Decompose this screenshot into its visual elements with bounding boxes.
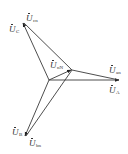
label-u-cn-main: U bbox=[26, 14, 33, 23]
label-u-an-sub: an bbox=[116, 70, 121, 75]
label-u-bn-main: U bbox=[29, 139, 36, 148]
label-u-an-main: U bbox=[109, 66, 116, 75]
phasor-u-nN bbox=[49, 70, 71, 80]
phasor-u-cn bbox=[24, 23, 72, 70]
label-u-a-sub: A bbox=[116, 90, 120, 95]
label-u-b-main: U bbox=[12, 128, 19, 137]
label-u-a-main: U bbox=[109, 86, 116, 95]
label-u-bn-sub: bn bbox=[36, 143, 41, 148]
label-u-c-main: U bbox=[9, 25, 16, 34]
label-u-an: Uan bbox=[109, 66, 121, 75]
label-u-b-sub: B bbox=[19, 132, 22, 137]
label-u-cn-sub: cn bbox=[33, 18, 38, 23]
label-u-nN-main: U bbox=[50, 61, 57, 70]
label-u-b: UB bbox=[12, 128, 22, 137]
label-u-c: UC bbox=[9, 25, 19, 34]
label-u-nN: UnN bbox=[50, 61, 63, 70]
label-u-nN-sub: nN bbox=[57, 65, 63, 70]
phasor-u-c bbox=[23, 23, 49, 80]
label-u-c-sub: C bbox=[16, 29, 19, 34]
label-u-bn: Ubn bbox=[29, 139, 41, 148]
label-u-a: UA bbox=[109, 86, 120, 95]
label-u-cn: Ucn bbox=[26, 14, 38, 23]
